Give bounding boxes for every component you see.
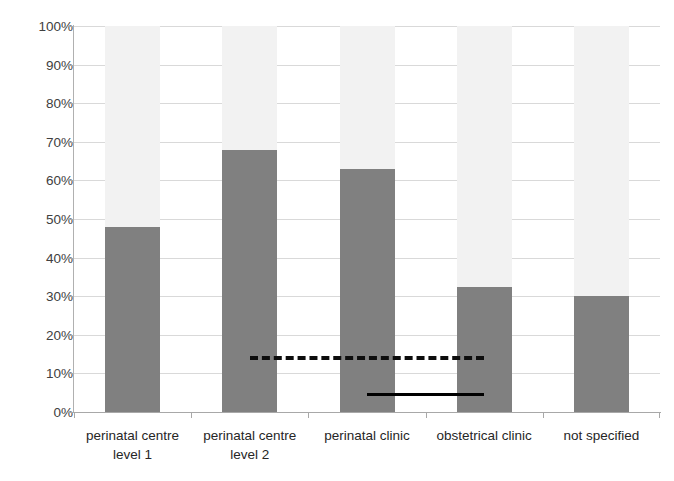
bar-group xyxy=(574,26,629,412)
x-axis: perinatal centrelevel 1perinatal centrel… xyxy=(74,418,660,474)
y-axis-tick-mark xyxy=(66,373,73,374)
bar-group xyxy=(222,26,277,412)
y-axis-tick-mark xyxy=(66,335,73,336)
x-axis-category-label-line: obstetrical clinic xyxy=(426,426,543,445)
y-axis-tick-mark xyxy=(66,219,73,220)
solid-reference-line xyxy=(367,393,484,396)
bar xyxy=(222,150,277,412)
x-axis-category-label: perinatal clinic xyxy=(308,426,425,445)
y-axis-tick-mark xyxy=(66,258,73,259)
x-axis-category-label: not specified xyxy=(543,426,660,445)
x-axis-category-label: obstetrical clinic xyxy=(426,426,543,445)
dashed-reference-line xyxy=(250,356,484,360)
bar-group xyxy=(457,26,512,412)
x-axis-tick-mark xyxy=(308,412,309,418)
y-axis-tick-label: 80% xyxy=(13,96,73,111)
y-axis-tick-label: 10% xyxy=(13,366,73,381)
x-axis-category-label-line: not specified xyxy=(543,426,660,445)
bar-chart: 0%10%20%30%40%50%60%70%80%90%100% perina… xyxy=(0,0,674,481)
bar-group xyxy=(340,26,395,412)
x-axis-category-label: perinatal centrelevel 1 xyxy=(74,426,191,464)
y-axis-tick-label: 70% xyxy=(13,134,73,149)
x-axis-category-label: perinatal centrelevel 2 xyxy=(191,426,308,464)
x-axis-category-label-line: level 1 xyxy=(74,445,191,464)
y-axis-tick-label: 40% xyxy=(13,250,73,265)
x-axis-category-label-line: perinatal clinic xyxy=(308,426,425,445)
bar xyxy=(574,296,629,412)
plot-area xyxy=(74,26,660,412)
x-axis-tick-mark xyxy=(659,412,660,418)
x-axis-tick-mark xyxy=(191,412,192,418)
y-axis-tick-label: 0% xyxy=(13,405,73,420)
bar xyxy=(105,227,160,412)
x-axis-tick-mark xyxy=(543,412,544,418)
y-axis: 0%10%20%30%40%50%60%70%80%90%100% xyxy=(0,26,73,412)
y-axis-tick-mark xyxy=(66,296,73,297)
x-axis-category-label-line: perinatal centre xyxy=(191,426,308,445)
y-axis-tick-mark xyxy=(66,180,73,181)
y-axis-tick-label: 30% xyxy=(13,289,73,304)
y-axis-tick-mark xyxy=(66,26,73,27)
y-axis-tick-label: 20% xyxy=(13,327,73,342)
x-axis-category-label-line: perinatal centre xyxy=(74,426,191,445)
x-axis-tick-mark xyxy=(426,412,427,418)
y-axis-tick-label: 60% xyxy=(13,173,73,188)
y-axis-tick-label: 100% xyxy=(13,19,73,34)
y-axis-tick-mark xyxy=(66,142,73,143)
y-axis-tick-mark xyxy=(66,412,73,413)
gridline xyxy=(74,412,660,413)
y-axis-tick-label: 90% xyxy=(13,57,73,72)
y-axis-tick-label: 50% xyxy=(13,212,73,227)
y-axis-tick-mark xyxy=(66,65,73,66)
bar-group xyxy=(105,26,160,412)
x-axis-category-label-line: level 2 xyxy=(191,445,308,464)
bar xyxy=(340,169,395,412)
x-axis-tick-mark xyxy=(74,412,75,418)
y-axis-tick-mark xyxy=(66,103,73,104)
